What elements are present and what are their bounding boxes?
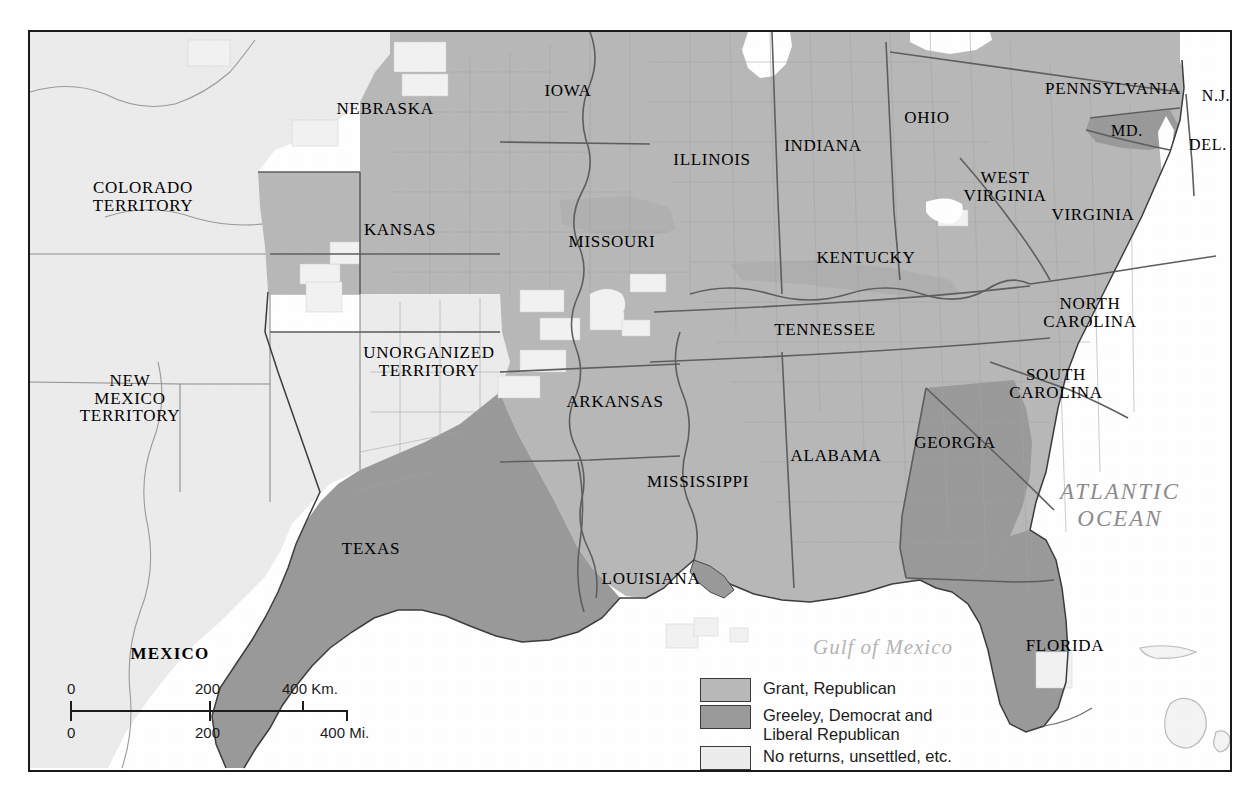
scale-tick-km-0 bbox=[70, 701, 72, 710]
map-graphic bbox=[30, 32, 1230, 770]
scale-tick-mi-0 bbox=[70, 712, 72, 721]
legend-label-no-returns: No returns, unsettled, etc. bbox=[763, 746, 952, 766]
scale-bar: 0 200 400 Km. 0 200 400 Mi. bbox=[70, 710, 348, 712]
scale-mi-400: 400 Mi. bbox=[320, 724, 369, 741]
scale-km-200: 200 bbox=[195, 680, 220, 697]
legend-swatch-grant bbox=[700, 678, 751, 702]
scale-tick-mi-200 bbox=[209, 712, 211, 721]
legend-row-greeley: Greeley, Democrat andLiberal Republican bbox=[700, 705, 952, 743]
legend-swatch-greeley bbox=[700, 705, 751, 729]
legend-swatch-no-returns bbox=[700, 746, 751, 770]
legend-label-greeley: Greeley, Democrat andLiberal Republican bbox=[763, 705, 932, 743]
scale-mi-0: 0 bbox=[67, 724, 75, 741]
scale-tick-mi-400 bbox=[346, 712, 348, 721]
map-frame: COLORADOTERRITORYNEWMEXICOTERRITORYUNORG… bbox=[28, 30, 1232, 772]
scale-km-400: 400 Km. bbox=[282, 680, 338, 697]
legend-row-no-returns: No returns, unsettled, etc. bbox=[700, 746, 952, 770]
legend-row-grant: Grant, Republican bbox=[700, 678, 952, 702]
scale-tick-km-200 bbox=[209, 701, 211, 710]
legend-label-grant: Grant, Republican bbox=[763, 678, 896, 698]
election-map-page: COLORADOTERRITORYNEWMEXICOTERRITORYUNORG… bbox=[0, 0, 1254, 790]
scale-mi-200: 200 bbox=[195, 724, 220, 741]
scale-tick-km-400 bbox=[302, 701, 304, 710]
scale-km-0: 0 bbox=[67, 680, 75, 697]
map-legend: Grant, RepublicanGreeley, Democrat andLi… bbox=[700, 678, 952, 772]
scale-line bbox=[70, 710, 348, 712]
